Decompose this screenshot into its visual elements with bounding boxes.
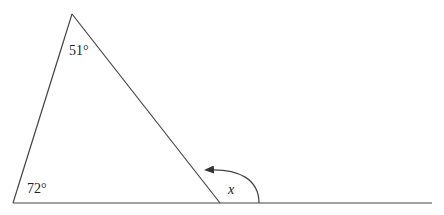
apex-angle-label: 51° bbox=[69, 43, 89, 58]
side-right bbox=[72, 14, 220, 203]
side-left bbox=[13, 14, 72, 203]
base-left-angle-label: 72° bbox=[27, 181, 47, 196]
triangle-diagram: 51° 72° x bbox=[0, 0, 444, 215]
exterior-angle-label: x bbox=[227, 182, 235, 197]
